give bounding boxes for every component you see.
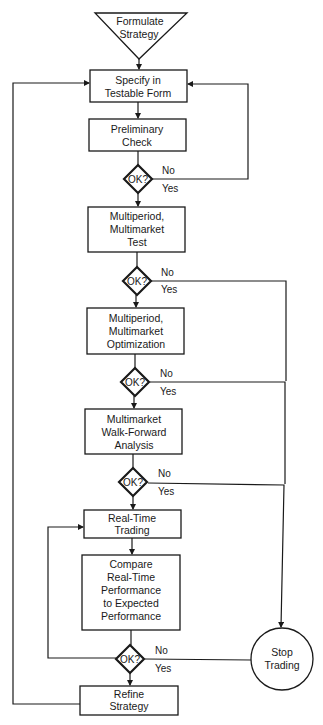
realtime-label-line1: Real-Time xyxy=(108,512,156,524)
ok5-no-label: No xyxy=(155,645,168,656)
refine-label-line2: Strategy xyxy=(109,700,149,712)
ok4-no-label: No xyxy=(158,468,171,479)
optimization-label-line3: Optimization xyxy=(107,338,166,350)
node-real-time-trading: Real-Time Trading xyxy=(84,510,181,538)
compare-label-line4: to Expected xyxy=(103,597,159,609)
ok3-yes-label: Yes xyxy=(160,386,176,397)
ok4-label: OK? xyxy=(123,477,143,488)
walkforward-label-line3: Analysis xyxy=(114,439,153,451)
strategy-development-flowchart: Formulate Strategy Specify in Testable F… xyxy=(0,0,323,725)
node-multimarket-optimization: Multiperiod, Multimarket Optimization xyxy=(87,308,184,354)
node-compare-performance: Compare Real-Time Performance to Expecte… xyxy=(82,555,180,630)
node-multimarket-test: Multiperiod, Multimarket Test xyxy=(88,207,185,252)
ok2-label: OK? xyxy=(127,276,147,287)
specify-label-line1: Specify in xyxy=(115,74,161,86)
test-label-line2: Multimarket xyxy=(110,223,164,235)
ok1-yes-label: Yes xyxy=(162,183,178,194)
compare-label-line3: Performance xyxy=(101,584,161,596)
node-specify-testable-form: Specify in Testable Form xyxy=(90,70,187,102)
test-label-line3: Test xyxy=(127,236,146,248)
walkforward-label-line1: Multimarket xyxy=(107,413,161,425)
edge-ok5-no-stop xyxy=(145,659,251,660)
walkforward-label-line2: Walk-Forward xyxy=(102,426,167,438)
ok1-no-label: No xyxy=(162,165,175,176)
node-preliminary-check: Preliminary Check xyxy=(89,119,186,151)
ok5-label: OK? xyxy=(120,654,140,665)
stop-label-line2: Trading xyxy=(264,659,299,671)
preliminary-label-line2: Check xyxy=(122,136,153,148)
ok3-label: OK? xyxy=(125,377,145,388)
refine-label-line1: Refine xyxy=(114,688,145,700)
node-formulate-strategy: Formulate Strategy xyxy=(95,13,187,59)
ok5-yes-label: Yes xyxy=(155,663,171,674)
compare-label-line1: Compare xyxy=(109,558,152,570)
realtime-label-line2: Trading xyxy=(114,524,149,536)
compare-label-line2: Real-Time xyxy=(107,571,155,583)
optimization-label-line2: Multimarket xyxy=(109,325,163,337)
node-stop-trading: Stop Trading xyxy=(251,628,313,690)
ok2-yes-label: Yes xyxy=(161,284,177,295)
preliminary-label-line1: Preliminary xyxy=(111,123,164,135)
specify-label-line2: Testable Form xyxy=(105,87,172,99)
formulate-label-line1: Formulate xyxy=(116,15,163,27)
stop-label-line1: Stop xyxy=(271,646,293,658)
optimization-label-line1: Multiperiod, xyxy=(109,312,163,324)
decision-ok-4: OK? No Yes xyxy=(119,468,174,497)
formulate-label-line2: Strategy xyxy=(119,28,159,40)
compare-label-line5: Performance xyxy=(101,610,161,622)
ok3-no-label: No xyxy=(160,368,173,379)
ok2-no-label: No xyxy=(161,267,174,278)
ok1-label: OK? xyxy=(128,174,148,185)
edge-refine-specify xyxy=(13,83,89,704)
ok4-yes-label: Yes xyxy=(158,486,174,497)
node-refine-strategy: Refine Strategy xyxy=(80,686,178,715)
node-walk-forward-analysis: Multimarket Walk-Forward Analysis xyxy=(85,409,182,454)
test-label-line1: Multiperiod, xyxy=(110,210,164,222)
